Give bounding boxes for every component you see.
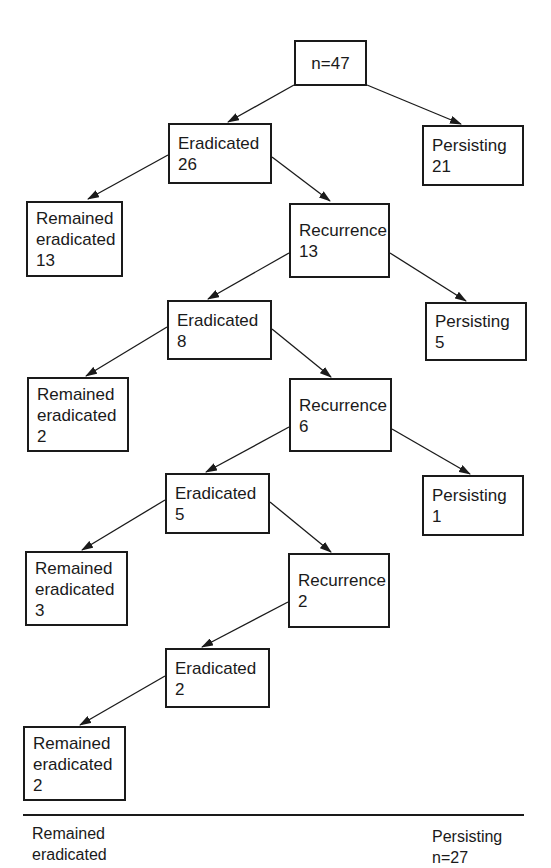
- node-value: 2: [37, 426, 121, 447]
- node-label-line2: eradicated: [37, 405, 121, 426]
- arrow-to-eradicated-5: [206, 427, 289, 472]
- node-label-line1: Remained: [35, 558, 120, 579]
- arrow-to-eradicated-8: [208, 253, 289, 299]
- node-persisting-1: Persisting 1: [422, 475, 524, 536]
- node-label: Recurrence: [298, 570, 382, 591]
- node-label: Eradicated: [175, 483, 262, 504]
- node-value: 6: [299, 416, 384, 437]
- arrow-to-recurrence-6: [272, 329, 331, 377]
- node-value: 2: [298, 591, 382, 612]
- arrow-root-to-persisting-21: [367, 85, 461, 124]
- node-label-line1: Remained: [33, 733, 118, 754]
- node-recurrence-6: Recurrence 6: [289, 378, 392, 452]
- node-label-line1: Remained: [36, 208, 115, 229]
- node-eradicated-2: Eradicated 2: [165, 648, 270, 708]
- footer-right-line1: Persisting: [432, 826, 502, 847]
- node-recurrence-13: Recurrence 13: [289, 203, 390, 278]
- footer-right-line2: n=27: [432, 847, 502, 868]
- summary-divider: [23, 814, 524, 816]
- node-remained-eradicated-13: Remained eradicated 13: [26, 201, 123, 277]
- node-remained-eradicated-2: Remained eradicated 2: [27, 377, 129, 452]
- arrow-to-remained-2: [86, 327, 167, 376]
- node-value: 5: [175, 504, 262, 525]
- node-label: Persisting: [435, 311, 519, 332]
- node-value: 13: [36, 250, 115, 271]
- footer-left-line2: eradicated: [32, 844, 107, 865]
- node-eradicated-8: Eradicated 8: [167, 300, 272, 360]
- treatment-outcome-tree: n=47 Eradicated 26 Persisting 21 Remaine…: [0, 0, 551, 868]
- node-label: Recurrence: [299, 220, 382, 241]
- footer-remained-eradicated: Remained eradicated: [32, 823, 107, 865]
- arrow-to-eradicated-2: [202, 602, 288, 647]
- node-value: 5: [435, 332, 519, 353]
- node-value: 13: [299, 241, 382, 262]
- node-value: 3: [35, 600, 120, 621]
- arrow-to-recurrence-2: [270, 502, 331, 552]
- node-label: Recurrence: [299, 395, 384, 416]
- node-persisting-5: Persisting 5: [425, 302, 527, 361]
- node-eradicated-26: Eradicated 26: [168, 123, 272, 184]
- node-value: 26: [178, 154, 264, 175]
- node-recurrence-2: Recurrence 2: [288, 553, 390, 628]
- node-label-line1: Remained: [37, 384, 121, 405]
- arrow-root-to-eradicated-26: [228, 85, 294, 122]
- arrow-to-remained-13: [88, 155, 168, 199]
- node-value: 21: [432, 156, 516, 177]
- node-eradicated-5: Eradicated 5: [165, 473, 270, 534]
- arrow-to-recurrence-13: [272, 157, 330, 201]
- node-value: 2: [33, 775, 118, 796]
- node-label-line2: eradicated: [36, 229, 115, 250]
- node-label-line2: eradicated: [35, 579, 120, 600]
- root-label: n=47: [311, 53, 349, 74]
- arrow-to-remained-2-final: [80, 676, 165, 725]
- node-label: Eradicated: [175, 658, 262, 679]
- arrow-to-persisting-1: [392, 429, 470, 474]
- node-label: Persisting: [432, 485, 516, 506]
- node-persisting-21: Persisting 21: [422, 125, 524, 186]
- node-value: 1: [432, 506, 516, 527]
- node-remained-eradicated-3: Remained eradicated 3: [25, 551, 128, 626]
- arrow-to-persisting-5: [390, 253, 466, 301]
- footer-persisting: Persisting n=27: [432, 826, 502, 868]
- node-label: Eradicated: [178, 133, 264, 154]
- node-label-line2: eradicated: [33, 754, 118, 775]
- node-remained-eradicated-2-final: Remained eradicated 2: [23, 726, 126, 801]
- node-value: 2: [175, 679, 262, 700]
- node-label: Persisting: [432, 135, 516, 156]
- footer-left-line1: Remained: [32, 823, 107, 844]
- arrow-to-remained-3: [82, 500, 165, 550]
- root-node: n=47: [294, 40, 367, 86]
- node-value: 8: [177, 331, 264, 352]
- node-label: Eradicated: [177, 310, 264, 331]
